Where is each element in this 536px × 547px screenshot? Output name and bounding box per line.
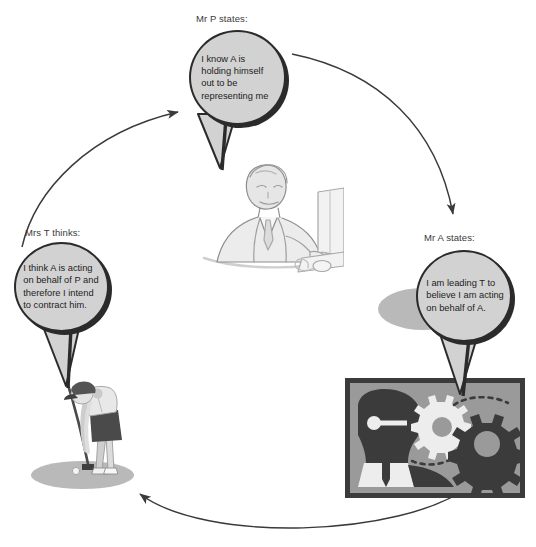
- bubble-tail-third-party: [40, 322, 102, 392]
- caption-agent: Mr A states:: [424, 232, 475, 243]
- head-with-gears-figure: [345, 378, 525, 498]
- diagram-canvas: Mr P states:: [0, 0, 536, 547]
- woman-golfer-figure: [52, 378, 134, 484]
- caption-principal: Mr P states:: [196, 13, 248, 24]
- speech-bubble-agent-text: I am leading T to believe I am acting on…: [426, 277, 504, 314]
- speech-bubble-third-party-text: I think A is acting on behalf of P and t…: [23, 262, 101, 312]
- speech-bubble-third-party: I think A is acting on behalf of P and t…: [14, 242, 109, 332]
- caption-third-party: Mrs T thinks:: [25, 227, 80, 238]
- speech-bubble-principal: I know A is holding himself out to be re…: [189, 30, 286, 125]
- speech-bubble-agent: I am leading T to believe I am acting on…: [416, 250, 512, 342]
- bubble-tail-agent: [436, 332, 498, 402]
- speech-bubble-principal-text: I know A is holding himself out to be re…: [201, 53, 275, 103]
